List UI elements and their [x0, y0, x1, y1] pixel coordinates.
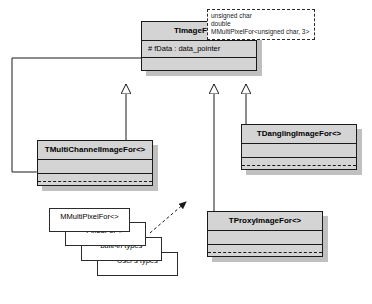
class-box-multichannelimagefor[interactable]: TMultiChannelImageFor<> — [37, 140, 153, 186]
class-operations-multichannelimagefor — [38, 182, 152, 192]
class-attributes-proxyimagefor — [208, 231, 322, 245]
dependency-types-to-proxy — [150, 202, 186, 233]
class-box-danglingimagefor[interactable]: TDanglingImageFor<> — [241, 124, 357, 170]
class-operations-danglingimagefor — [242, 166, 356, 176]
note-line-2: double — [211, 20, 311, 28]
class-title-danglingimagefor: TDanglingImageFor<> — [242, 125, 356, 144]
class-attributes-timagefor: # fData : data_pointer — [142, 41, 256, 58]
type-box-label-mmultipixelfor: MMultiPixelFor<> — [60, 212, 118, 221]
class-separator-multichannelimagefor — [38, 174, 152, 182]
class-separator-proxyimagefor — [208, 245, 322, 253]
class-attributes-danglingimagefor — [242, 144, 356, 158]
note-box: unsigned char double MMultiPixelFor<unsi… — [207, 9, 315, 40]
class-title-proxyimagefor: TProxyImageFor<> — [208, 212, 322, 231]
class-operations-proxyimagefor — [208, 253, 322, 263]
class-separator-danglingimagefor — [242, 158, 356, 166]
type-box-mmultipixelfor[interactable]: MMultiPixelFor<> — [49, 208, 130, 232]
uml-class-diagram: TImageFor<> # fData : data_pointer unsig… — [0, 0, 372, 304]
class-box-proxyimagefor[interactable]: TProxyImageFor<> — [207, 211, 323, 257]
note-line-3: MMultiPixelFor<unsigned char, 3> — [211, 28, 311, 36]
class-attributes-multichannelimagefor — [38, 160, 152, 174]
class-operations-timagefor — [142, 58, 256, 68]
note-line-1: unsigned char — [211, 12, 311, 20]
class-title-multichannelimagefor: TMultiChannelImageFor<> — [38, 141, 152, 160]
